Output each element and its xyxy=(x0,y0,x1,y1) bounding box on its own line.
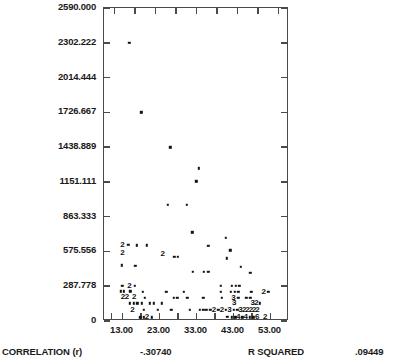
data-point-count-label: 4 xyxy=(243,313,247,321)
data-point xyxy=(151,316,153,318)
data-point xyxy=(121,285,123,287)
x-tick-bottom xyxy=(214,313,216,319)
data-point-count-label: 2 xyxy=(127,282,131,290)
data-point xyxy=(166,204,168,206)
x-tick-top xyxy=(257,8,259,14)
data-point xyxy=(252,316,254,318)
data-point xyxy=(226,316,228,318)
data-point xyxy=(149,302,151,304)
data-point-count-label: 2 xyxy=(130,306,134,314)
data-point-count-label: 2 xyxy=(263,313,267,321)
data-point xyxy=(192,271,194,273)
data-point xyxy=(250,291,252,293)
data-point xyxy=(189,308,191,310)
x-axis-tick-label: 43.00 xyxy=(221,324,244,335)
y-axis-tick-label: 2590.000 xyxy=(58,2,96,12)
x-tick-bottom xyxy=(159,313,161,319)
data-point xyxy=(230,285,232,287)
data-point xyxy=(249,271,251,273)
data-point xyxy=(240,265,242,267)
correlation-value: -.30740 xyxy=(140,346,172,357)
x-tick-top xyxy=(216,8,218,14)
data-point xyxy=(229,249,231,251)
x-axis-tick-label: 33.00 xyxy=(184,324,207,335)
data-point xyxy=(220,290,222,292)
data-point xyxy=(202,308,204,310)
y-tick-right xyxy=(281,251,287,253)
data-point xyxy=(121,264,123,266)
data-point-count-label: 2 xyxy=(145,313,149,321)
x-tick-bottom xyxy=(122,313,124,319)
data-point xyxy=(141,302,143,304)
y-tick-right xyxy=(281,216,287,218)
data-point xyxy=(143,308,145,310)
y-tick-left xyxy=(104,216,110,218)
y-tick-right xyxy=(281,7,287,9)
data-point xyxy=(249,316,251,318)
data-point-count-label: 3 xyxy=(227,306,231,314)
data-point xyxy=(161,302,163,304)
x-tick-top xyxy=(155,8,157,14)
r-squared-value: .09449 xyxy=(355,346,383,357)
data-point xyxy=(177,256,179,258)
y-tick-right xyxy=(281,77,287,79)
data-point xyxy=(235,285,237,287)
data-point xyxy=(199,308,201,310)
x-axis-tick-label: 53.00 xyxy=(258,324,281,335)
y-tick-left xyxy=(104,7,110,9)
data-point xyxy=(231,316,233,318)
y-tick-right xyxy=(281,320,287,322)
data-point xyxy=(136,302,138,304)
data-point xyxy=(135,244,137,246)
x-tick-top xyxy=(134,8,136,14)
y-axis-tick-label: 2014.444 xyxy=(58,72,96,82)
y-axis-tick-label: 287.778 xyxy=(63,280,96,290)
y-axis-tick-label: 863.333 xyxy=(63,211,96,221)
y-tick-left xyxy=(104,42,110,44)
x-tick-bottom xyxy=(270,313,272,319)
data-point xyxy=(237,297,239,299)
data-point xyxy=(232,308,234,310)
data-point xyxy=(143,297,145,299)
y-axis-tick-label: 1151.111 xyxy=(60,176,96,186)
data-point xyxy=(191,231,193,233)
data-point-count-label: 4 xyxy=(236,313,240,321)
data-point-count-label: 2 xyxy=(161,250,165,258)
data-point xyxy=(134,285,136,287)
y-tick-right xyxy=(281,285,287,287)
data-point xyxy=(142,291,144,293)
data-point xyxy=(207,271,209,273)
data-point xyxy=(140,111,142,113)
data-point xyxy=(173,256,175,258)
data-point xyxy=(195,180,197,182)
y-tick-right xyxy=(281,146,287,148)
y-tick-left xyxy=(104,320,110,322)
data-point xyxy=(202,297,204,299)
x-axis-tick-label: 13.00 xyxy=(110,324,133,335)
data-point xyxy=(134,265,136,267)
y-axis-tick-label: 1726.667 xyxy=(58,106,96,116)
y-tick-left xyxy=(104,181,110,183)
x-tick-bottom xyxy=(111,313,113,319)
data-point xyxy=(145,244,147,246)
data-point-count-label: 3 xyxy=(232,299,236,307)
y-tick-left xyxy=(104,285,110,287)
x-axis-tick-label: 23.00 xyxy=(147,324,170,335)
data-point-count-label: 2 xyxy=(212,306,216,314)
statistics-footer: CORRELATION (r) -.30740 R SQUARED .09449 xyxy=(0,346,399,363)
y-axis-tick-label: 1438.889 xyxy=(58,141,96,151)
data-point xyxy=(139,316,141,318)
data-point xyxy=(205,308,207,310)
data-point xyxy=(226,257,228,259)
data-point xyxy=(198,167,200,169)
data-point xyxy=(170,308,172,310)
y-tick-left xyxy=(104,146,110,148)
data-point-count-label: 2 xyxy=(120,249,124,257)
x-tick-bottom xyxy=(177,313,179,319)
x-tick-top xyxy=(175,8,177,14)
data-point xyxy=(245,297,247,299)
data-point-count-label: 6 xyxy=(255,313,259,321)
x-tick-bottom xyxy=(196,313,198,319)
data-point xyxy=(176,297,178,299)
data-point xyxy=(172,297,174,299)
